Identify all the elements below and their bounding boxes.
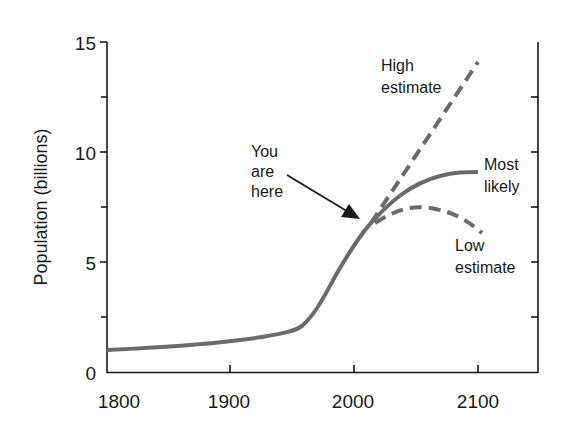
y-tick-10: 10 xyxy=(75,143,96,164)
you-are-here-arrow xyxy=(287,175,360,219)
x-tick-1800: 1800 xyxy=(98,391,140,412)
svg-text:estimate: estimate xyxy=(381,79,442,96)
annotation-low-estimate: Low estimate xyxy=(455,237,516,276)
svg-text:likely: likely xyxy=(484,178,520,195)
x-tick-2000: 2000 xyxy=(332,391,374,412)
series-historical xyxy=(107,222,372,350)
y-tick-5: 5 xyxy=(85,253,96,274)
annotation-high-estimate: High estimate xyxy=(381,57,442,96)
annotation-most-likely: Most likely xyxy=(484,156,520,195)
y-tick-0: 0 xyxy=(85,363,96,384)
svg-text:High: High xyxy=(381,57,414,74)
svg-text:Most: Most xyxy=(484,156,519,173)
series-low-estimate xyxy=(375,207,482,233)
y-axis-label: Population (billions) xyxy=(31,128,51,285)
svg-text:You: You xyxy=(251,143,278,160)
series-most-likely xyxy=(372,172,478,222)
svg-text:here: here xyxy=(251,183,283,200)
population-chart: 15 10 5 0 1800 1900 2000 2100 Population… xyxy=(0,0,566,438)
x-tick-1900: 1900 xyxy=(208,391,250,412)
svg-text:estimate: estimate xyxy=(455,259,516,276)
svg-text:Low: Low xyxy=(455,237,485,254)
svg-text:are: are xyxy=(251,163,274,180)
axes xyxy=(100,42,538,373)
annotation-you-are-here: You are here xyxy=(251,143,283,200)
x-tick-2100: 2100 xyxy=(457,391,499,412)
y-tick-15: 15 xyxy=(75,33,96,54)
